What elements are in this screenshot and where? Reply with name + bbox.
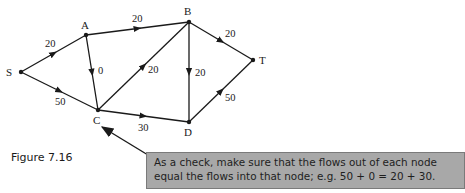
node-label-D: D [184,126,192,138]
edge-flow-label-B-D: 20 [195,67,206,78]
edge-flow-label-D-T: 50 [225,92,236,103]
node-D [187,120,191,124]
edges: 20502002020203050 [21,13,253,133]
edge-flow-label-A-B: 20 [132,13,143,24]
edge-flow-label-A-C: 0 [98,65,103,76]
note-line-2: equal the flows into that node; e.g. 50 … [154,169,460,183]
edge-C-D [98,110,189,122]
node-label-B: B [184,5,191,17]
edge-flow-label-C-D: 30 [138,122,149,133]
note-line-1: As a check, make sure that the flows out… [154,155,460,169]
node-label-S: S [6,66,12,78]
edge-flow-label-C-B: 20 [148,64,159,75]
note-box: As a check, make sure that the flows out… [146,152,465,189]
edge-flow-label-B-T: 20 [225,28,236,39]
node-C [96,108,100,112]
edge-C-B [98,22,189,110]
node-label-T: T [259,54,266,66]
node-label-C: C [93,114,100,126]
node-B [187,20,191,24]
node-label-A: A [81,19,89,31]
nodes: SABTCD [6,5,266,138]
edge-flow-label-S-C: 50 [55,96,66,107]
edge-A-C [86,35,98,110]
node-A [84,33,88,37]
edge-flow-label-S-A: 20 [45,38,56,49]
edge-B-T [189,22,253,60]
node-T [251,58,255,62]
node-S [19,70,23,74]
figure-caption: Figure 7.16 [11,151,73,164]
